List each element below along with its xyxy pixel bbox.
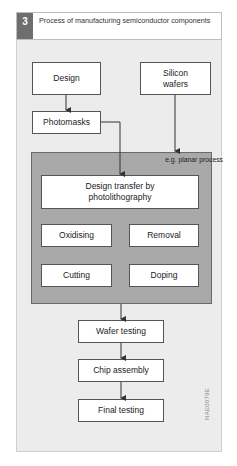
connector-arrows — [0, 0, 237, 466]
arrow-photomasks-to-transfer — [101, 122, 120, 174]
figure-code: NAE0079E — [204, 388, 210, 420]
